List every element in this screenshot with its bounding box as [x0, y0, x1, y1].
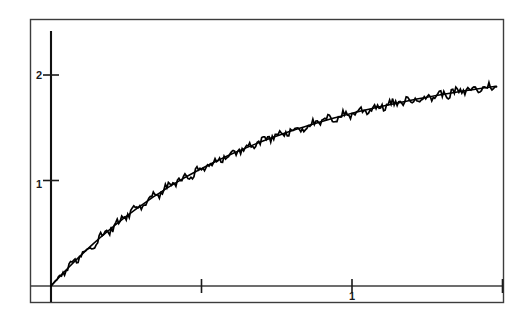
- plot-frame: [31, 20, 504, 303]
- smooth-curve-path: [51, 86, 496, 286]
- x-tick-label-1: 1: [342, 291, 362, 302]
- chart-plot-area: [0, 0, 529, 318]
- noisy-curve-path: [51, 82, 496, 286]
- y-tick-label-1: 1: [28, 179, 42, 190]
- y-tick-label-2: 2: [28, 70, 42, 81]
- chart-figure: 1 2 1: [0, 0, 529, 318]
